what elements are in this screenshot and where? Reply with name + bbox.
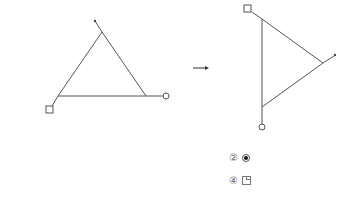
right-top-extension <box>252 12 262 19</box>
right-circle-marker <box>259 124 265 130</box>
square-corner-icon <box>242 176 251 185</box>
left-square-marker <box>46 106 53 113</box>
arrow-icon <box>193 66 209 70</box>
left-bl-extension <box>52 96 58 106</box>
transformation-diagram <box>0 0 354 199</box>
left-dot-marker <box>94 20 96 22</box>
option-2: ② <box>229 152 250 163</box>
right-right-extension <box>323 56 334 63</box>
left-top-extension <box>95 21 102 32</box>
filled-circle-icon <box>242 154 250 162</box>
right-square-marker <box>244 5 251 12</box>
left-triangle <box>52 21 163 106</box>
right-triangle <box>252 12 334 124</box>
option-4-number: ④ <box>229 175 238 186</box>
right-dot-marker <box>334 54 336 56</box>
option-2-number: ② <box>229 152 238 163</box>
left-circle-marker <box>163 93 169 99</box>
option-4: ④ <box>229 175 251 186</box>
